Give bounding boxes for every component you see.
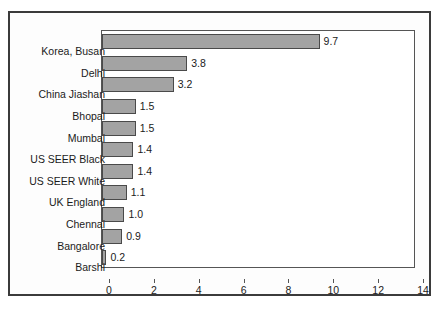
x-axis-tick-label: 14 [417,284,429,296]
x-axis-tick [378,279,379,283]
bar [102,121,136,136]
x-axis-tick [423,279,424,283]
x-axis-tick-label: 4 [196,284,202,296]
category-label: UK England [49,194,105,210]
category-label: Bhopal [72,108,105,124]
bar [102,142,133,157]
bar [102,77,174,92]
bar [102,164,133,179]
x-axis-tick [109,279,110,283]
x-axis-tick-label: 8 [286,284,292,296]
x-axis-tick [333,279,334,283]
category-label: Korea, Busan [41,43,105,59]
x-axis-tick-label: 0 [106,284,112,296]
bars-layer: 9.73.83.21.51.51.41.41.11.00.90.2 [102,31,414,267]
plot-area: 9.73.83.21.51.51.41.41.11.00.90.2 [101,30,415,268]
category-label: Chennai [66,216,105,232]
x-axis-tick-label: 10 [327,284,339,296]
bar-value-label: 9.7 [324,33,339,49]
x-axis-tick [154,279,155,283]
bar-value-label: 1.4 [137,141,152,157]
bar-row: 1.4 [102,161,414,183]
category-label: Delhi [81,65,105,81]
bar-value-label: 0.2 [110,249,125,265]
category-label: Barshi [75,259,105,275]
bar-value-label: 1.0 [128,206,143,222]
bar-row: 1.0 [102,204,414,226]
bar [102,185,127,200]
category-label: US SEER White [29,173,105,189]
x-axis-tick-label: 2 [151,284,157,296]
bar [102,99,136,114]
category-label: Bangalore [57,238,105,254]
bar-row: 0.9 [102,226,414,248]
bar [102,207,124,222]
bar-row: 3.2 [102,74,414,96]
category-label: Mumbai [68,130,105,146]
bar-value-label: 1.5 [140,98,155,114]
bar-value-label: 1.4 [137,163,152,179]
category-label: China Jiashan [38,86,105,102]
bar-row: 1.1 [102,182,414,204]
bar-value-label: 0.9 [126,228,141,244]
bar-row: 0.2 [102,247,414,269]
bar-value-label: 3.8 [191,55,206,71]
x-axis-tick [199,279,200,283]
bar [102,34,320,49]
x-axis: 02468101214 [109,279,423,301]
bar-row: 1.5 [102,118,414,140]
x-axis-tick-label: 6 [241,284,247,296]
bar [102,56,187,71]
bar [102,229,122,244]
category-label: US SEER Black [30,151,105,167]
x-axis-tick [244,279,245,283]
category-labels-axis: Korea, BusanDelhiChina JiashanBhopalMumb… [12,41,105,279]
bar-value-label: 1.5 [140,120,155,136]
bar-row: 3.8 [102,53,414,75]
bar-value-label: 3.2 [178,76,193,92]
x-axis-tick-label: 12 [372,284,384,296]
bar-value-label: 1.1 [131,184,146,200]
bar-row: 1.5 [102,96,414,118]
bar-row: 1.4 [102,139,414,161]
x-axis-tick [288,279,289,283]
bar-row: 9.7 [102,31,414,53]
chart-figure: 9.73.83.21.51.51.41.41.11.00.90.2 Korea,… [8,11,431,296]
